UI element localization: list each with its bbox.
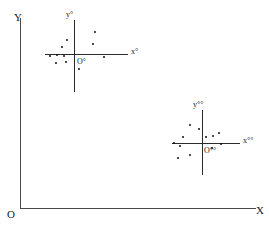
local-frame-2-x-axis bbox=[172, 143, 240, 144]
scatter-point bbox=[189, 124, 191, 126]
scatter-point bbox=[189, 154, 191, 156]
scatter-point bbox=[205, 136, 207, 138]
local-frame-2-y-label: y°° bbox=[193, 101, 203, 109]
scatter-point bbox=[220, 143, 222, 145]
figure-canvas: Y O X y° x° O° y°° x°° O°° bbox=[0, 0, 269, 227]
scatter-point bbox=[177, 157, 179, 159]
scatter-point bbox=[182, 136, 184, 138]
scatter-point bbox=[179, 145, 181, 147]
scatter-point bbox=[212, 135, 214, 137]
scatter-point bbox=[218, 132, 220, 134]
local-frame-2-x-label: x°° bbox=[243, 137, 253, 145]
scatter-point bbox=[198, 128, 200, 130]
local-frame-2: y°° x°° O°° bbox=[0, 0, 269, 227]
